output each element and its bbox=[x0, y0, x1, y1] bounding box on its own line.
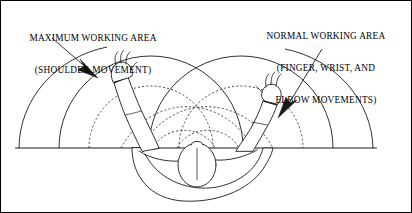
normal-working-area-label-line1: NORMAL WORKING AREA bbox=[244, 31, 408, 42]
maximum-working-area-label-line2: (SHOULDER MOVEMENT) bbox=[9, 65, 177, 76]
head-crown bbox=[191, 141, 203, 145]
normal-working-area-label-line2: (FINGER, WRIST, AND bbox=[244, 63, 408, 74]
maximum-working-area-label: MAXIMUM WORKING AREA (SHOULDER MOVEMENT) bbox=[9, 12, 177, 97]
diagram-canvas: MAXIMUM WORKING AREA (SHOULDER MOVEMENT)… bbox=[0, 0, 412, 213]
shoulder-line-right bbox=[215, 150, 257, 160]
normal-working-area-label: NORMAL WORKING AREA (FINGER, WRIST, AND … bbox=[244, 10, 408, 127]
normal-working-area-label-line3: ELBOW MOVEMENTS) bbox=[244, 95, 408, 106]
maximum-working-area-label-line1: MAXIMUM WORKING AREA bbox=[9, 33, 177, 44]
